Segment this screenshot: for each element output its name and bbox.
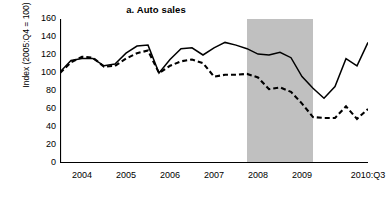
x-axis-tick-label: 2004 [72, 170, 92, 180]
y-axis-tick-label: 140 [26, 32, 56, 41]
y-axis-tick-label: 20 [26, 140, 56, 149]
y-axis-tick-label: 160 [26, 14, 56, 23]
x-axis-tick-labels: 2004200520062007200820092010:Q3 [60, 170, 368, 186]
x-axis-tick-label: 2010:Q3 [351, 170, 386, 180]
solid-series [60, 42, 368, 98]
y-axis-tick-label: 120 [26, 50, 56, 59]
auto-sales-chart-figure: a. Auto sales Index (2005:Q4 = 100) 0204… [0, 0, 392, 202]
x-axis-tick-label: 2007 [204, 170, 224, 180]
x-axis-tick-label: 2009 [292, 170, 312, 180]
x-axis-tick-label: 2008 [248, 170, 268, 180]
y-axis-tick-label: 40 [26, 122, 56, 131]
y-axis-tick-label: 100 [26, 68, 56, 77]
y-axis-tick-label: 60 [26, 104, 56, 113]
dashed-series [60, 51, 368, 119]
y-axis-tick-label: 0 [26, 158, 56, 167]
recession-band [247, 19, 313, 163]
y-axis-tick-labels: 020406080100120140160 [24, 19, 56, 163]
y-axis-tick-label: 80 [26, 86, 56, 95]
x-axis-tick-label: 2005 [116, 170, 136, 180]
plot-svg [60, 19, 368, 163]
plot-area [60, 19, 368, 163]
x-axis-tick-label: 2006 [160, 170, 180, 180]
